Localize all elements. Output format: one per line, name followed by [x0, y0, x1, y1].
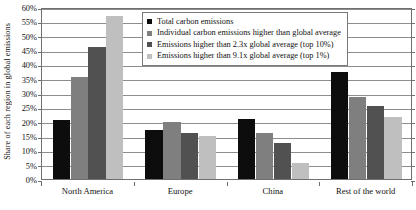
- bar: [292, 163, 309, 179]
- bar: [163, 122, 180, 179]
- bar: [199, 136, 216, 179]
- bar: [349, 97, 366, 179]
- y-axis-tick-label: 25%: [22, 104, 37, 113]
- axis-tick-mark: [411, 152, 415, 153]
- legend-item-label: Total carbon emissions: [157, 18, 233, 26]
- bar: [53, 120, 70, 179]
- bar-chart: Share of each region in global emissions…: [0, 0, 416, 210]
- bar: [331, 72, 348, 180]
- legend-swatch-icon: [147, 19, 152, 24]
- legend-swatch-icon: [147, 54, 152, 59]
- x-axis-tick-label: Europe: [168, 186, 193, 196]
- axis-tick-mark: [411, 52, 415, 53]
- y-axis-tick-labels: 0%5%10%15%20%25%30%35%40%45%50%55%60%: [14, 0, 40, 182]
- axis-tick-mark: [411, 66, 415, 67]
- y-axis-tick-label: 50%: [22, 32, 37, 41]
- axis-tick-mark: [411, 109, 415, 110]
- axis-tick-mark: [411, 80, 415, 81]
- x-axis-tick-mark: [41, 182, 42, 186]
- axis-tick-mark: [411, 123, 415, 124]
- chart-legend: Total carbon emissionsIndividual carbon …: [142, 12, 348, 66]
- legend-item: Emissions higher than 9.1x global averag…: [147, 51, 341, 63]
- x-axis-tick-mark: [412, 182, 413, 186]
- bar: [71, 77, 88, 179]
- y-axis-title: Share of each region in global emissions: [0, 0, 14, 182]
- legend-item: Total carbon emissions: [147, 16, 341, 28]
- legend-item-label: Individual carbon emissions higher than …: [157, 29, 341, 37]
- x-axis-tick-label: China: [263, 186, 284, 196]
- bar: [384, 117, 401, 179]
- x-axis-tick-mark: [227, 182, 228, 186]
- axis-tick-mark: [411, 23, 415, 24]
- x-axis-tick-label: Rest of the world: [336, 186, 395, 196]
- y-axis-tick-label: 45%: [22, 47, 37, 56]
- legend-item-label: Emissions higher than 9.1x global averag…: [157, 52, 329, 60]
- y-axis-tick-label: 20%: [22, 118, 37, 127]
- y-axis-tick-label: 30%: [22, 90, 37, 99]
- axis-tick-mark: [411, 95, 415, 96]
- legend-item: Individual carbon emissions higher than …: [147, 28, 341, 40]
- y-axis-tick-label: 5%: [26, 161, 37, 170]
- y-axis-tick-label: 35%: [22, 75, 37, 84]
- bar: [145, 130, 162, 179]
- bar-group: [53, 9, 124, 179]
- x-axis-tick-label: North America: [62, 186, 113, 196]
- axis-tick-mark: [411, 138, 415, 139]
- bar: [238, 119, 255, 179]
- axis-tick-mark: [411, 9, 415, 10]
- legend-item: Emissions higher than 2.3x global averag…: [147, 39, 341, 51]
- bar: [106, 16, 123, 179]
- bar: [181, 133, 198, 179]
- x-axis-tick-labels: North AmericaEuropeChinaRest of the worl…: [41, 182, 412, 202]
- y-axis-tick-label: 40%: [22, 61, 37, 70]
- y-axis-title-text: Share of each region in global emissions: [3, 23, 12, 160]
- legend-swatch-icon: [147, 42, 152, 47]
- y-axis-tick-label: 60%: [22, 4, 37, 13]
- legend-item-label: Emissions higher than 2.3x global averag…: [157, 41, 334, 49]
- bar: [256, 133, 273, 179]
- bar: [367, 106, 384, 179]
- legend-swatch-icon: [147, 31, 152, 36]
- axis-tick-mark: [411, 37, 415, 38]
- bar: [274, 143, 291, 179]
- x-axis-tick-mark: [134, 182, 135, 186]
- y-axis-tick-label: 0%: [26, 176, 37, 185]
- y-axis-tick-label: 15%: [22, 133, 37, 142]
- y-axis-tick-label: 10%: [22, 147, 37, 156]
- bar: [88, 47, 105, 179]
- axis-tick-mark: [411, 166, 415, 167]
- x-axis-tick-mark: [319, 182, 320, 186]
- y-axis-tick-label: 55%: [22, 18, 37, 27]
